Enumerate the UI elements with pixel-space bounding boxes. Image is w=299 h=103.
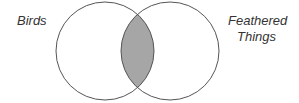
venn-diagram: Birds Feathered Things [0, 0, 299, 103]
label-birds: Birds [17, 13, 47, 28]
label-feathered: Feathered [228, 13, 288, 28]
label-things: Things [237, 29, 277, 44]
